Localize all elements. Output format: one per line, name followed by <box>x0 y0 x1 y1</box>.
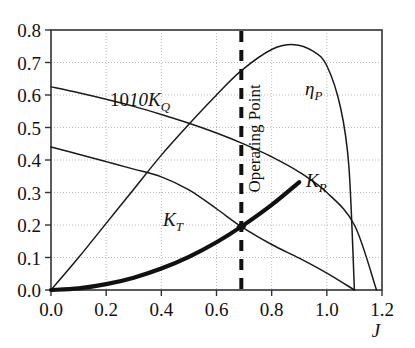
propeller-performance-chart: 0.00.20.40.60.81.01.20.00.10.20.30.40.50… <box>0 0 415 348</box>
y-tick-label: 0.8 <box>17 20 41 41</box>
y-tick-label: 0.6 <box>17 85 41 106</box>
x-tick-label: 0.6 <box>205 299 229 320</box>
chart-background <box>0 0 415 348</box>
x-tick-label: 0.0 <box>39 299 63 320</box>
y-tick-label: 0.3 <box>17 183 41 204</box>
y-tick-label: 0.2 <box>17 215 41 236</box>
x-tick-label: 1.0 <box>315 299 339 320</box>
chart-canvas: 0.00.20.40.60.81.01.20.00.10.20.30.40.50… <box>0 0 415 348</box>
y-tick-label: 0.1 <box>17 248 41 269</box>
operating-point-label: Operating Point <box>245 84 264 192</box>
x-tick-label: 0.8 <box>260 299 284 320</box>
y-tick-label: 0.4 <box>17 150 41 171</box>
x-tick-label: 1.2 <box>370 299 394 320</box>
x-tick-label: 0.2 <box>94 299 118 320</box>
y-tick-label: 0.5 <box>17 118 41 139</box>
y-tick-label: 0.0 <box>17 280 41 301</box>
x-tick-label: 0.4 <box>149 299 173 320</box>
y-tick-label: 0.7 <box>17 53 41 74</box>
